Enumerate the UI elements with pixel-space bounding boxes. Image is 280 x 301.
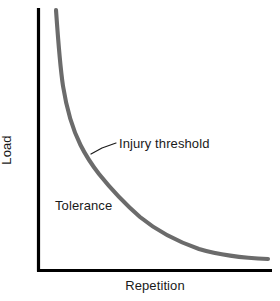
x-axis-label: Repetition bbox=[37, 279, 273, 293]
injury-threshold-leader-line bbox=[91, 143, 116, 154]
chart-figure: Load Repetition Injury threshold Toleran… bbox=[0, 0, 280, 301]
tolerance-annotation: Tolerance bbox=[55, 199, 112, 213]
injury-threshold-annotation: Injury threshold bbox=[119, 137, 209, 151]
y-axis-label: Load bbox=[0, 115, 14, 185]
injury-threshold-curve bbox=[56, 10, 268, 259]
